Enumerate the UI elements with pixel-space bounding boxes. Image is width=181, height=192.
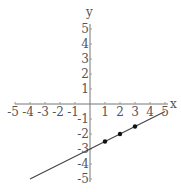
y-tick-label: 3 [81, 52, 89, 66]
y-tick-label: -2 [77, 127, 89, 141]
y-tick-label: -1 [77, 112, 89, 126]
y-tick-label: 5 [81, 22, 89, 36]
axes [15, 24, 168, 182]
x-tick-label: -4 [22, 105, 34, 119]
trend-line [30, 112, 165, 180]
x-tick-label: 2 [116, 105, 124, 119]
x-tick-label: -5 [7, 105, 19, 119]
data-point [133, 124, 137, 128]
data-point [103, 139, 107, 143]
y-tick-label: 2 [81, 67, 89, 81]
y-tick-label: -5 [77, 172, 89, 186]
x-tick-label: -2 [52, 105, 64, 119]
x-tick-label: 3 [131, 105, 139, 119]
chart: -5-4-3-2-11234554321-1-2-3-4-5 x y [0, 0, 181, 192]
y-tick-label: 1 [81, 82, 89, 96]
y-axis-label: y [85, 5, 93, 19]
y-tick-label: 4 [81, 37, 89, 51]
y-tick-label: -4 [77, 157, 89, 171]
x-axis-label: x [170, 97, 177, 111]
x-tick-label: -3 [37, 105, 49, 119]
series [30, 112, 165, 180]
x-tick-label: 1 [101, 105, 109, 119]
data-point [118, 132, 122, 136]
